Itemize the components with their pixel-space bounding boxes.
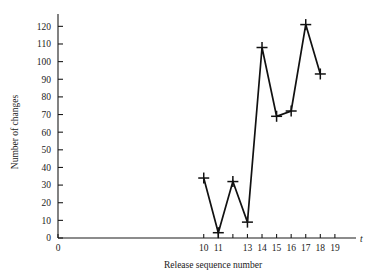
y-tick-label: 120 — [37, 22, 52, 32]
y-axis-title: Number of changes — [10, 95, 20, 170]
x-tick-label: 15 — [272, 243, 282, 253]
y-tick-label: 10 — [42, 216, 52, 226]
y-tick-label: 20 — [42, 198, 52, 208]
x-axis-variable-label: t — [360, 234, 363, 244]
x-tick-label: 19 — [330, 243, 340, 253]
x-tick-label: 14 — [257, 243, 267, 253]
x-tick-label: 17 — [301, 243, 311, 253]
x-tick-label: 0 — [56, 243, 61, 253]
line-chart: 0102030405060708090100110120 01011131415… — [0, 0, 380, 271]
y-tick-label: 90 — [42, 75, 52, 85]
chart-background — [0, 0, 380, 271]
y-tick-label: 70 — [42, 110, 52, 120]
y-tick-label: 110 — [37, 39, 51, 49]
x-axis-title: Release sequence number — [164, 260, 263, 270]
y-tick-label: 40 — [42, 163, 52, 173]
x-tick-label: 18 — [316, 243, 326, 253]
x-tick-label: 11 — [214, 243, 223, 253]
x-tick-label: 13 — [243, 243, 253, 253]
x-tick-label: 16 — [286, 243, 296, 253]
y-tick-label: 30 — [42, 180, 52, 190]
y-tick-label: 0 — [46, 233, 51, 243]
x-tick-label: 10 — [199, 243, 209, 253]
y-tick-label: 60 — [42, 128, 52, 138]
y-tick-label: 80 — [42, 92, 52, 102]
y-tick-label: 50 — [42, 145, 52, 155]
chart-figure: 0102030405060708090100110120 01011131415… — [0, 0, 380, 271]
y-tick-label: 100 — [37, 57, 52, 67]
